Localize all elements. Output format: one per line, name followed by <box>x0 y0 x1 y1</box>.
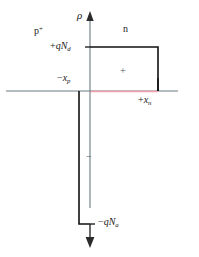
positive-amplitude-subscript: d <box>67 45 70 52</box>
region-label-n: n <box>123 24 128 34</box>
negative-amplitude-subscript: a <box>115 221 118 228</box>
negative-charge-sign: − <box>86 152 92 162</box>
negative-block-arrowhead <box>86 237 95 248</box>
x-left-subscript: p <box>67 77 70 84</box>
x-right-subscript: n <box>148 99 151 106</box>
region-label-p: p+ <box>34 26 43 36</box>
y-axis-arrowhead <box>86 11 93 21</box>
positive-amplitude-label: +qNd <box>50 41 71 53</box>
negative-amplitude-label: −qNa <box>98 217 119 229</box>
positive-charge-sign: + <box>120 66 126 76</box>
region-label-p-superscript: + <box>39 25 43 32</box>
y-axis-label: ρ <box>77 10 82 21</box>
x-right-label: +xn <box>138 95 152 107</box>
x-left-label: −xp <box>57 73 71 85</box>
charge-density-figure: ρ p+ n +qNd −xp +xn −qNa + − <box>0 0 199 257</box>
